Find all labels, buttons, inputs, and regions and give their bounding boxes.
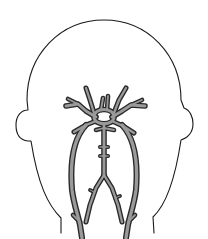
right-center-branch	[107, 96, 108, 110]
anatomy-figure	[0, 0, 208, 239]
head-vessel-diagram	[0, 0, 208, 239]
